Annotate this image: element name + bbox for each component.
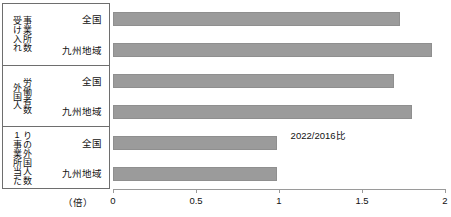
row-label-zenkoku: 全国	[41, 127, 109, 157]
bar	[113, 74, 394, 88]
category-label-table: 受け入れ 事業所数 全国 九州地域 外国人 労働者数 全国 九州地域 1事業所当…	[2, 3, 110, 189]
group-label-text: 1事業所当た	[12, 130, 22, 185]
group-rows: 全国 九州地域	[41, 66, 109, 127]
row-label-kyushu: 九州地域	[41, 158, 109, 188]
row-label-kyushu: 九州地域	[41, 34, 109, 64]
bar	[113, 43, 432, 57]
chart-container: 受け入れ 事業所数 全国 九州地域 外国人 労働者数 全国 九州地域 1事業所当…	[0, 0, 451, 217]
bar-fill	[113, 12, 400, 26]
group-label-per-jigyosho: 1事業所当た りの外国人数	[3, 127, 41, 188]
plot-area	[113, 0, 451, 189]
x-tick-label: 0.5	[189, 195, 202, 206]
bar	[113, 105, 412, 119]
x-tick	[362, 189, 363, 193]
group-label-text-2: 労働者数	[22, 78, 32, 114]
chart-annotation: 2022/2016比	[291, 128, 346, 142]
x-tick	[196, 189, 197, 193]
x-tick	[113, 189, 114, 193]
group-label-text-2: 事業所数	[22, 16, 32, 52]
x-tick-label: 1.5	[355, 195, 368, 206]
x-tick	[445, 189, 446, 193]
row-label-zenkoku: 全国	[41, 4, 109, 34]
x-tick	[279, 189, 280, 193]
bar-fill	[113, 167, 277, 181]
x-tick-label: 2	[442, 195, 447, 206]
group-label-rodosha: 外国人 労働者数	[3, 66, 41, 127]
bar	[113, 12, 400, 26]
x-tick-label: 0	[110, 195, 115, 206]
bar-fill	[113, 105, 412, 119]
bar	[113, 167, 277, 181]
group-row-rodosha: 外国人 労働者数 全国 九州地域	[3, 66, 109, 128]
bar-fill	[113, 74, 394, 88]
group-label-jigyosho: 受け入れ 事業所数	[3, 4, 41, 65]
group-label-text: 受け入れ	[12, 16, 22, 52]
bar-fill	[113, 136, 277, 150]
group-rows: 全国 九州地域	[41, 4, 109, 65]
group-row-per-jigyosho: 1事業所当た りの外国人数 全国 九州地域	[3, 127, 109, 188]
row-label-zenkoku: 全国	[41, 66, 109, 96]
bar-fill	[113, 43, 432, 57]
group-label-text-2: りの外国人数	[22, 131, 32, 185]
bar	[113, 136, 277, 150]
group-row-jigyosho: 受け入れ 事業所数 全国 九州地域	[3, 4, 109, 66]
x-tick-label: 1	[276, 195, 281, 206]
row-label-kyushu: 九州地域	[41, 96, 109, 126]
group-rows: 全国 九州地域	[41, 127, 109, 188]
axis-unit-label: （倍）	[63, 195, 93, 209]
group-label-text: 外国人	[12, 83, 22, 110]
